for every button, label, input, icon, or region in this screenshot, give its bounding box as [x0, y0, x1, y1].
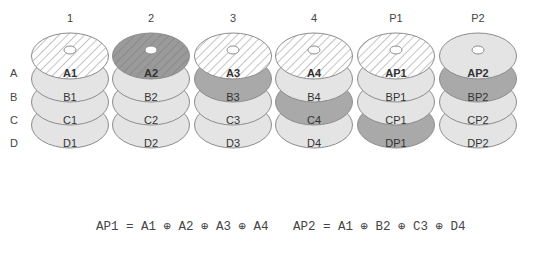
disk-label: 1	[67, 12, 73, 24]
block-label-c2: C2	[144, 114, 158, 126]
block-label-ap2: AP2	[467, 67, 488, 79]
parity-equations-p2: AP2 = A1 ⊕ B2 ⊕ C3 ⊕ D4 BP2 = A2 ⊕ B3 ⊕ …	[293, 176, 473, 254]
disk-4: 4A4B4C4D4	[276, 12, 353, 149]
disk-2: 2A2B2C2D2	[113, 12, 190, 149]
block-label-c1: C1	[63, 114, 77, 126]
block-label-d4: D4	[307, 137, 321, 149]
spindle-hole-icon	[227, 46, 239, 54]
spindle-hole-icon	[145, 46, 157, 54]
block-label-a4: A4	[307, 67, 322, 79]
row-label-b: B	[10, 91, 17, 103]
block-label-c3: C3	[226, 114, 240, 126]
disk-1: 1A1B1C1D1	[32, 12, 109, 149]
disk-label: P1	[389, 12, 402, 24]
block-label-dp1: DP1	[385, 137, 406, 149]
block-label-dp2: DP2	[467, 137, 488, 149]
block-label-d2: D2	[144, 137, 158, 149]
row-label-a: A	[10, 67, 18, 79]
block-label-b1: B1	[63, 91, 76, 103]
block-label-a1: A1	[63, 67, 77, 79]
block-label-cp2: CP2	[467, 114, 488, 126]
disk-label: 2	[148, 12, 154, 24]
disk-label: 3	[230, 12, 236, 24]
equation-ap2: AP2 = A1 ⊕ B2 ⊕ C3 ⊕ D4	[293, 217, 473, 238]
block-label-c4: C4	[307, 114, 321, 126]
spindle-hole-icon	[308, 46, 320, 54]
spindle-hole-icon	[472, 46, 484, 54]
disk-p2: P2AP2BP2CP2DP2	[440, 12, 517, 149]
block-label-ap1: AP1	[385, 67, 406, 79]
block-label-b2: B2	[144, 91, 157, 103]
block-label-d3: D3	[226, 137, 240, 149]
block-label-a2: A2	[144, 67, 158, 79]
row-labels: ABCD	[10, 67, 18, 149]
block-label-d1: D1	[63, 137, 77, 149]
block-label-a3: A3	[226, 67, 240, 79]
spindle-hole-icon	[64, 46, 76, 54]
block-label-b4: B4	[307, 91, 320, 103]
disk-label: 4	[311, 12, 317, 24]
block-label-cp1: CP1	[385, 114, 406, 126]
block-label-bp2: BP2	[468, 91, 489, 103]
disk-3: 3A3B3C3D3	[195, 12, 272, 149]
disk-label: P2	[471, 12, 484, 24]
equation-ap1: AP1 = A1 ⊕ A2 ⊕ A3 ⊕ A4	[96, 217, 269, 238]
row-label-d: D	[10, 137, 18, 149]
row-label-c: C	[10, 114, 18, 126]
spindle-hole-icon	[390, 46, 402, 54]
block-label-bp1: BP1	[386, 91, 407, 103]
raid-disk-diagram: ABCD 1A1B1C1D12A2B2C2D23A3B3C3D34A4B4C4D…	[0, 0, 538, 170]
disk-p1: P1AP1BP1CP1DP1	[358, 12, 435, 149]
parity-equations-p1: AP1 = A1 ⊕ A2 ⊕ A3 ⊕ A4 BP1 = B1 ⊕ B2 ⊕ …	[96, 176, 269, 254]
disk-columns: 1A1B1C1D12A2B2C2D23A3B3C3D34A4B4C4D4P1AP…	[32, 12, 517, 149]
block-label-b3: B3	[226, 91, 239, 103]
